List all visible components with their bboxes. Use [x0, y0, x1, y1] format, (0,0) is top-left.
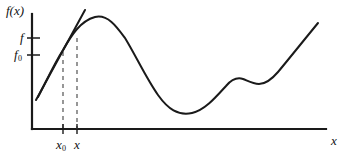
- x-tick-label-x: x: [74, 138, 80, 151]
- x-axis-label: x: [331, 134, 337, 147]
- x-tick-label-x0-subscript: 0: [62, 144, 66, 153]
- x-tick-label-x0-base: x: [56, 137, 62, 152]
- y-tick-label-f0-subscript: 0: [18, 54, 22, 63]
- y-axis-label: f(x): [6, 4, 24, 17]
- figure-container: f(x) f f0 x0 x x: [0, 0, 345, 161]
- x-tick-label-x0: x0: [56, 138, 66, 151]
- y-tick-label-f: f: [20, 31, 24, 44]
- function-plot-svg: [0, 0, 345, 161]
- y-tick-label-f0: f0: [14, 48, 22, 61]
- function-curve: [38, 17, 318, 114]
